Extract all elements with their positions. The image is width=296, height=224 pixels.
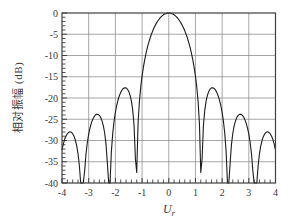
x-tick-label: 3	[246, 187, 251, 198]
x-tick-label: 4	[273, 187, 278, 198]
x-axis-title-sub: r	[172, 208, 176, 218]
y-tick-label: -25	[45, 114, 58, 125]
plot-canvas: 0-5-10-15-20-25-30-35-40-4-3-2-101234	[0, 0, 296, 224]
y-tick-label: -30	[45, 135, 58, 146]
y-tick-label: -15	[45, 71, 58, 82]
x-axis-title-base: U	[163, 202, 172, 216]
y-tick-label: 0	[53, 8, 58, 19]
x-tick-label: -1	[138, 187, 146, 198]
y-tick-label: -5	[50, 29, 58, 40]
y-tick-label: -10	[45, 50, 58, 61]
x-tick-label: -4	[58, 187, 66, 198]
x-tick-label: 0	[166, 187, 171, 198]
airy-beam-pattern-figure: 0-5-10-15-20-25-30-35-40-4-3-2-101234 相对…	[0, 0, 296, 224]
x-axis-title: Ur	[149, 202, 189, 218]
y-axis-title: 相对振幅 (dB)	[9, 51, 22, 145]
y-tick-label: -40	[45, 178, 58, 189]
x-tick-label: 2	[220, 187, 225, 198]
x-tick-label: -3	[85, 187, 93, 198]
x-tick-label: 1	[193, 187, 198, 198]
y-tick-label: -20	[45, 93, 58, 104]
y-tick-label: -35	[45, 156, 58, 167]
x-tick-label: -2	[111, 187, 119, 198]
